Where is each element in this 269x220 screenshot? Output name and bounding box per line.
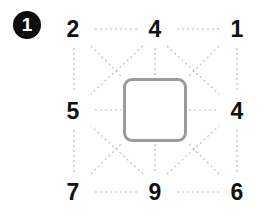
line-d-bl-to-center	[91, 144, 121, 174]
grid-cell-middle-left: 5	[58, 96, 88, 126]
grid-cell-bottom-middle: 9	[140, 177, 170, 207]
grid-cell-middle-right: 4	[222, 96, 252, 126]
number-grid: 2 4 1 5 4 7 9 6	[55, 10, 255, 210]
diagram-canvas: 1	[0, 0, 269, 220]
step-number-badge: 1	[13, 11, 41, 39]
grid-cell-bottom-left: 7	[58, 177, 88, 207]
grid-cell-top-left: 2	[58, 14, 88, 44]
line-d-br-to-center	[189, 144, 219, 174]
grid-cell-top-right: 1	[222, 14, 252, 44]
line-d-tr-to-center	[189, 46, 219, 76]
center-rounded-square	[123, 78, 187, 142]
grid-cell-bottom-right: 6	[222, 177, 252, 207]
grid-cell-top-middle: 4	[140, 14, 170, 44]
line-d-tl-to-center	[91, 46, 121, 76]
